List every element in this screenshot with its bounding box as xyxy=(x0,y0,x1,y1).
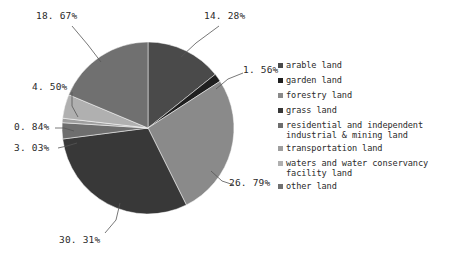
legend-swatch-icon xyxy=(278,78,283,83)
pie-label-other: 18. 67% xyxy=(36,10,77,21)
legend-swatch-icon xyxy=(278,146,283,151)
legend-item-label: waters and water conservancy facility la… xyxy=(286,158,428,178)
legend-item-label: other land xyxy=(286,181,337,191)
pie-label-transportation: 0. 84% xyxy=(14,121,50,132)
pie-label-arable: 14. 28% xyxy=(204,10,245,21)
pie-slice-group xyxy=(62,42,234,214)
legend-swatch-icon xyxy=(278,161,283,166)
legend-item[interactable]: arable land xyxy=(278,60,454,70)
legend-item-label: garden land xyxy=(286,75,342,85)
legend-item[interactable]: other land xyxy=(278,181,454,191)
pie-label-grass: 30. 31% xyxy=(59,234,100,245)
legend-swatch-icon xyxy=(278,93,283,98)
chart-legend: arable landgarden landforestry landgrass… xyxy=(278,60,454,196)
legend-item-label: transportation land xyxy=(286,143,382,153)
leader-line-other xyxy=(72,26,101,62)
legend-swatch-icon xyxy=(278,63,283,68)
pie-label-garden: 1. 56% xyxy=(243,64,279,75)
legend-item[interactable]: forestry land xyxy=(278,90,454,100)
legend-item[interactable]: residential and independent industrial &… xyxy=(278,120,454,140)
legend-item[interactable]: transportation land xyxy=(278,143,454,153)
pie-label-forestry: 26. 79% xyxy=(229,177,270,188)
legend-item-label: forestry land xyxy=(286,90,352,100)
legend-item-label: arable land xyxy=(286,60,342,70)
legend-swatch-icon xyxy=(278,108,283,113)
legend-swatch-icon xyxy=(278,123,283,128)
legend-item[interactable]: waters and water conservancy facility la… xyxy=(278,158,454,178)
pie-label-residential: 3. 03% xyxy=(14,142,50,153)
pie-chart-area: 14. 28% 1. 56% 26. 79% 30. 31% 3. 03% 0.… xyxy=(0,0,280,262)
legend-item[interactable]: grass land xyxy=(278,105,454,115)
legend-item[interactable]: garden land xyxy=(278,75,454,85)
pie-label-waters: 4. 50% xyxy=(32,81,68,92)
legend-swatch-icon xyxy=(278,184,283,189)
legend-item-label: grass land xyxy=(286,105,337,115)
legend-item-label: residential and independent industrial &… xyxy=(286,120,423,140)
pie-chart-figure: 14. 28% 1. 56% 26. 79% 30. 31% 3. 03% 0.… xyxy=(0,0,454,262)
